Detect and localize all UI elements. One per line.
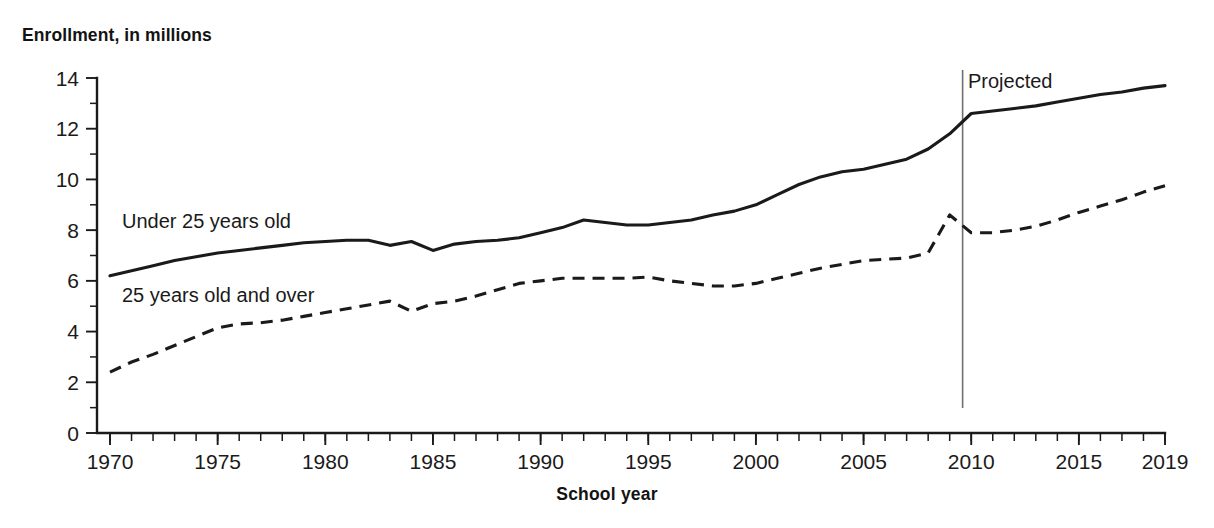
x-tick-label: 2010 — [948, 450, 995, 470]
y-tick-label: 4 — [67, 320, 79, 343]
x-tick-label: 1995 — [625, 450, 672, 470]
x-axis-title: School year — [0, 484, 1214, 505]
axis-lines — [97, 78, 1165, 433]
y-tick-labels: 02468101214 — [56, 67, 80, 445]
series-annotation-25-and-over: 25 years old and over — [122, 284, 315, 306]
y-tick-label: 8 — [67, 219, 79, 242]
x-tick-label: 2005 — [840, 450, 887, 470]
x-tick-labels: 1970197519801985199019952000200520102015… — [87, 450, 1189, 470]
series-line-under-25 — [110, 86, 1165, 276]
chart-figure: Enrollment, in millions 02468101214 1970… — [0, 0, 1214, 528]
x-tick-label: 2015 — [1056, 450, 1103, 470]
x-tick-label: 2019 — [1142, 450, 1189, 470]
y-tick-label: 2 — [67, 371, 79, 394]
x-tick-label: 1970 — [87, 450, 134, 470]
x-tick-label: 1990 — [517, 450, 564, 470]
y-axis-title: Enrollment, in millions — [22, 25, 212, 46]
x-major-tick-group — [110, 433, 1165, 445]
y-tick-label: 0 — [67, 422, 79, 445]
x-tick-label: 1980 — [302, 450, 349, 470]
line-chart-plot: 02468101214 1970197519801985199019952000… — [0, 0, 1214, 470]
y-tick-label: 12 — [56, 117, 79, 140]
projected-annotation: Projected — [968, 70, 1053, 92]
y-tick-label: 6 — [67, 269, 79, 292]
series-annotation-under-25: Under 25 years old — [122, 210, 291, 232]
x-tick-label: 1985 — [410, 450, 457, 470]
x-tick-label: 2000 — [733, 450, 780, 470]
y-tick-label: 14 — [56, 67, 80, 90]
y-tick-label: 10 — [56, 168, 79, 191]
x-tick-label: 1975 — [194, 450, 241, 470]
